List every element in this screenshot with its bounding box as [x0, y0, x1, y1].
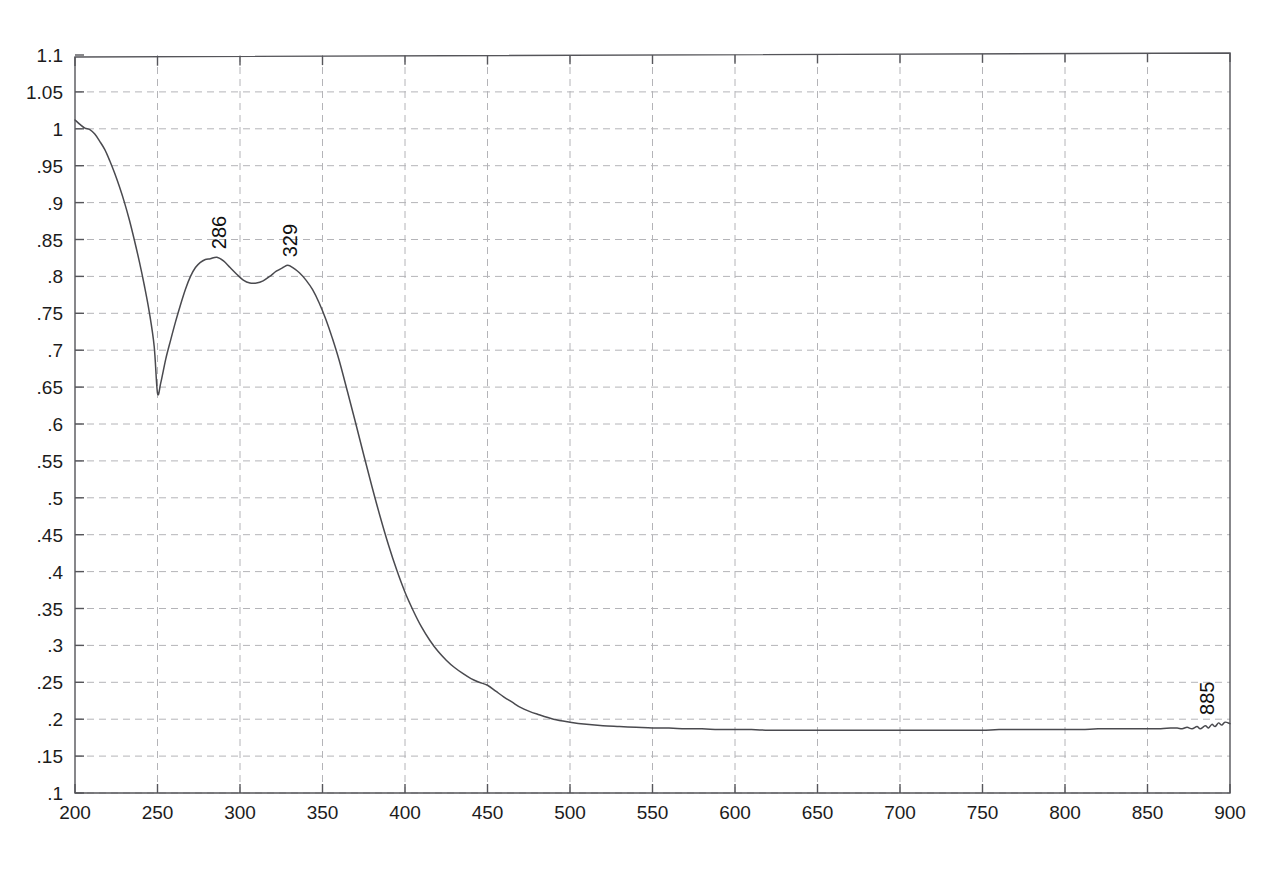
peak-label-329: 329: [279, 224, 301, 257]
x-axis-tick-label: 300: [224, 802, 256, 823]
y-axis-tick-label: .95: [37, 156, 63, 177]
peak-label-885: 885: [1196, 682, 1218, 715]
x-axis-tick-label: 650: [802, 802, 834, 823]
y-axis-tick-labels: 1.11.051.95.9.85.8.75.7.65.6.55.5.45.4.3…: [26, 45, 63, 804]
y-axis-tick-label: .25: [37, 672, 63, 693]
y-axis-tick-label: .35: [37, 599, 63, 620]
y-axis-tick-label: .3: [47, 635, 63, 656]
y-axis-tick-label: .15: [37, 746, 63, 767]
x-axis-tick-label: 550: [637, 802, 669, 823]
y-axis-tick-label: 1.1: [37, 45, 63, 66]
x-axis-tick-label: 850: [1132, 802, 1164, 823]
x-axis-tick-label: 750: [967, 802, 999, 823]
x-axis-tick-label: 900: [1214, 802, 1246, 823]
y-axis-tick-label: .9: [47, 193, 63, 214]
x-axis-tick-label: 500: [554, 802, 586, 823]
y-axis-tick-label: .55: [37, 451, 63, 472]
y-axis-tick-label: .2: [47, 709, 63, 730]
y-axis-tick-label: .7: [47, 340, 63, 361]
x-axis-tick-label: 250: [142, 802, 174, 823]
y-axis-tick-label: 1: [52, 119, 63, 140]
y-axis-tick-label: .85: [37, 230, 63, 251]
x-axis-tick-label: 600: [719, 802, 751, 823]
x-axis-tick-label: 450: [472, 802, 504, 823]
y-axis-tick-label: .45: [37, 525, 63, 546]
y-axis-tick-label: .75: [37, 303, 63, 324]
peak-annotations: 286329885: [208, 216, 1218, 715]
y-axis-tick-label: .4: [47, 562, 63, 583]
x-axis-tick-labels: 2002503003504004505005506006507007508008…: [59, 802, 1246, 823]
x-axis-tick-label: 800: [1049, 802, 1081, 823]
peak-label-286: 286: [208, 216, 230, 249]
x-axis-tick-label: 700: [884, 802, 916, 823]
y-axis-tick-label: .5: [47, 488, 63, 509]
x-axis-tick-label: 400: [389, 802, 421, 823]
y-axis-tick-label: .6: [47, 414, 63, 435]
y-axis-tick-label: 1.05: [26, 82, 63, 103]
x-axis-tick-label: 350: [307, 802, 339, 823]
spectrum-chart: 1.11.051.95.9.85.8.75.7.65.6.55.5.45.4.3…: [0, 0, 1281, 871]
y-axis-tick-label: .65: [37, 377, 63, 398]
x-axis-tick-label: 200: [59, 802, 91, 823]
spectrum-plot: 1.11.051.95.9.85.8.75.7.65.6.55.5.45.4.3…: [0, 0, 1281, 871]
y-axis-tick-label: .1: [47, 783, 63, 804]
y-axis-tick-label: .8: [47, 266, 63, 287]
